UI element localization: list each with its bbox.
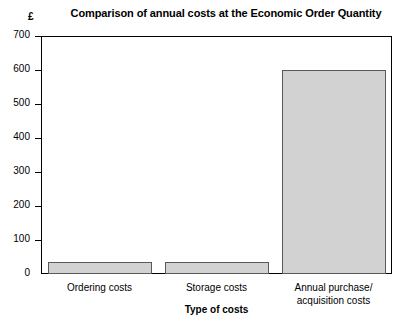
y-axis-tick-mark [35, 36, 41, 37]
x-axis-category-label: Storage costs [158, 281, 275, 294]
bar [48, 262, 152, 274]
y-axis-tick-label: 300 [13, 165, 30, 177]
y-axis-tick-mark [35, 104, 41, 105]
y-axis-tick-mark [35, 240, 41, 241]
y-axis-tick-label: 600 [13, 63, 30, 75]
y-axis-tick-label: 400 [13, 131, 30, 143]
y-axis-tick-label: 500 [13, 97, 30, 109]
y-axis-tick-mark [35, 206, 41, 207]
y-axis-tick-label: 700 [13, 29, 30, 41]
y-axis-tick-mark [35, 172, 41, 173]
y-axis-tick-label: 0 [24, 267, 30, 279]
chart-title: Comparison of annual costs at the Econom… [56, 6, 396, 20]
chart-screenshot: Comparison of annual costs at the Econom… [0, 0, 409, 331]
y-axis-tick-mark [35, 138, 41, 139]
y-axis-unit-label: £ [28, 11, 34, 23]
x-axis-category-label: Ordering costs [41, 281, 158, 294]
bar [165, 262, 269, 274]
y-axis-tick-label: 200 [13, 199, 30, 211]
x-axis-title: Type of costs [41, 303, 392, 316]
y-axis-tick-mark [35, 70, 41, 71]
bar [282, 70, 386, 274]
y-axis-tick-label: 100 [13, 233, 30, 245]
